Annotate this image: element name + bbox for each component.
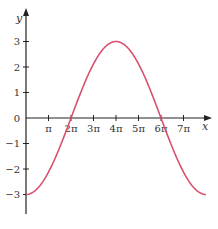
y-axis-label: y: [15, 12, 23, 25]
y-tick-label: −2: [5, 164, 20, 175]
y-tick-label: 2: [14, 62, 20, 73]
y-tick-label: 1: [14, 87, 20, 98]
x-tick-label: 5π: [132, 123, 145, 134]
y-tick-label: 3: [14, 36, 20, 47]
x-tick-label: 7π: [177, 123, 190, 134]
chart-plot: y x 3210−1−2−3 π2π3π4π5π6π7π: [0, 0, 218, 229]
y-tick-label: 0: [14, 113, 20, 124]
x-tick-label: 3π: [87, 123, 100, 134]
x-tick-label: π: [45, 123, 52, 134]
y-tick-label: −1: [5, 138, 20, 149]
x-axis: [26, 115, 212, 121]
y-tick-label: −3: [5, 189, 20, 200]
x-axis-label: x: [202, 120, 209, 133]
y-axis-arrow-icon: [23, 8, 29, 16]
x-tick-label: 4π: [110, 123, 123, 134]
y-axis: [23, 8, 29, 214]
